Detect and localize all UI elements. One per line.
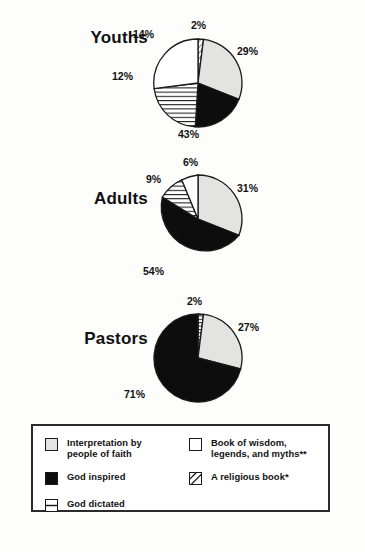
pie-chart-group-pastors: Pastors 2% 27% 71% xyxy=(0,295,365,420)
legend-label-religious-book: A religious book* xyxy=(211,471,289,482)
pct-label-adults-bottom: 54% xyxy=(143,265,164,277)
pct-label-adults-left-upper: 9% xyxy=(146,173,161,185)
legend-column-left: Interpretation by people of faith God in… xyxy=(45,437,190,525)
legend-label-line2: legends, and myths** xyxy=(211,448,307,459)
pie-chart-group-youths: Youths xyxy=(0,0,365,150)
legend: Interpretation by people of faith God in… xyxy=(31,424,330,512)
diagonal-hatch-swatch-icon xyxy=(189,472,202,485)
legend-label-line1: God inspired xyxy=(67,471,125,482)
pct-label-adults-top: 6% xyxy=(183,156,198,168)
pct-label-youths-left-lower: 12% xyxy=(112,70,133,82)
pct-label-adults-right: 31% xyxy=(237,182,258,194)
pie-adults-svg xyxy=(152,173,244,265)
legend-item-book-of-wisdom: Book of wisdom, legends, and myths** xyxy=(189,437,329,460)
pie-slice-book-of-wisdom xyxy=(154,39,198,89)
legend-label-line2: people of faith xyxy=(67,448,142,459)
group-title-youths: Youths xyxy=(28,28,148,48)
black-swatch-icon xyxy=(45,472,58,485)
legend-label-book-of-wisdom: Book of wisdom, legends, and myths** xyxy=(211,437,307,460)
legend-item-interpretation: Interpretation by people of faith xyxy=(45,437,190,460)
pct-label-youths-bottom: 43% xyxy=(178,128,199,140)
pct-label-pastors-top: 2% xyxy=(187,295,202,307)
group-title-pastors: Pastors xyxy=(24,329,148,349)
legend-label-line1: God dictated xyxy=(67,498,125,509)
pie-youths xyxy=(152,37,244,129)
pct-label-pastors-bottom: 71% xyxy=(124,388,145,400)
legend-label-god-dictated: God dictated xyxy=(67,498,125,509)
horizontal-lines-swatch-icon xyxy=(45,499,58,512)
chart-page: Youths xyxy=(0,0,365,552)
light-gray-swatch-icon xyxy=(45,438,58,451)
group-title-adults: Adults xyxy=(28,189,148,209)
white-swatch-icon xyxy=(189,438,202,451)
pie-chart-group-adults: Adults 6% 31% 54% 9% xyxy=(0,150,365,295)
legend-label-interpretation: Interpretation by people of faith xyxy=(67,437,142,460)
pct-label-youths-top: 2% xyxy=(191,19,206,31)
pie-slice-god-dictated xyxy=(154,83,198,127)
pie-pastors-svg xyxy=(152,312,244,404)
legend-column-right: Book of wisdom, legends, and myths** A r… xyxy=(189,437,329,498)
pie-youths-svg xyxy=(152,37,244,129)
legend-label-god-inspired: God inspired xyxy=(67,471,125,482)
pct-label-youths-left-upper: 14% xyxy=(133,28,154,40)
legend-label-line1: Interpretation by xyxy=(67,437,142,448)
legend-item-god-inspired: God inspired xyxy=(45,471,190,487)
legend-label-line1: Book of wisdom, xyxy=(211,437,287,448)
pie-adults xyxy=(152,173,244,265)
legend-item-religious-book: A religious book* xyxy=(189,471,329,487)
pct-label-pastors-right: 27% xyxy=(238,321,259,333)
legend-item-god-dictated: God dictated xyxy=(45,498,190,514)
legend-label-line1: A religious book* xyxy=(211,471,289,482)
pie-pastors xyxy=(152,312,244,404)
pct-label-youths-right: 29% xyxy=(237,45,258,57)
